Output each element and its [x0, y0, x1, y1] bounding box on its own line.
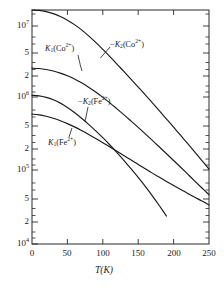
- ytick-exponent-6: 6: [26, 89, 29, 96]
- ytick-exponent-4: 4: [26, 236, 29, 243]
- x-axis-title: T(K): [95, 266, 113, 276]
- xtick-label-250: 250: [198, 249, 220, 258]
- ytick-label-5e5: 5: [8, 121, 29, 130]
- ytick-exponent-7: 7: [26, 18, 29, 25]
- k1-co-close: ): [72, 44, 75, 53]
- ytick-label-2e5: 2: [8, 144, 29, 153]
- curve-k1-fe: [32, 114, 209, 205]
- mk2-fe-open: (Fe: [91, 97, 102, 106]
- mk2-co-open: (Co: [123, 40, 135, 49]
- ytick-label-1e5: 105: [8, 165, 29, 174]
- k1-fe-close: ): [73, 138, 76, 147]
- figure-container: 107 5 2 106 5 2 105 5 2 104 0 50 100 150…: [0, 0, 224, 289]
- curve-minus-k2-fe: [32, 95, 167, 216]
- ytick-label-1e7: 107: [8, 21, 29, 30]
- annotation-leaders: [69, 47, 110, 137]
- k1-co-open: (Co: [53, 44, 65, 53]
- xtick-label-100: 100: [92, 249, 114, 258]
- ytick-label-2e4: 2: [8, 217, 29, 226]
- xtick-label-150: 150: [127, 249, 149, 258]
- ytick-label-5e4: 5: [8, 194, 29, 203]
- x-axis-title-symbol: T(K): [95, 265, 113, 275]
- ytick-label-5e6: 5: [8, 48, 29, 57]
- annotation-minus-k2-fe: −K2(Fe2+): [78, 98, 111, 106]
- ytick-label-1e4: 104: [8, 239, 29, 248]
- xtick-label-0: 0: [22, 249, 42, 258]
- y-axis-major-ticks: [32, 26, 38, 244]
- annotation-k1-fe: K1(Fe2+): [48, 139, 76, 147]
- mk2-fe-close: ): [108, 97, 111, 106]
- xtick-label-200: 200: [163, 249, 185, 258]
- annotation-k1-co: K1(Co2+): [45, 45, 74, 53]
- leader-k1-co: [78, 55, 82, 71]
- curve-k1-co: [32, 68, 209, 195]
- xtick-label-50: 50: [57, 249, 77, 258]
- mk2-co-close: ): [141, 40, 144, 49]
- annotation-minus-k2-co: −K2(Co2+): [110, 41, 144, 49]
- leader-mk2-fe: [85, 107, 88, 121]
- ytick-exponent-5: 5: [26, 162, 29, 169]
- k1-fe-open: (Fe: [56, 138, 67, 147]
- ytick-label-2e6: 2: [8, 71, 29, 80]
- ytick-label-1e6: 106: [8, 92, 29, 101]
